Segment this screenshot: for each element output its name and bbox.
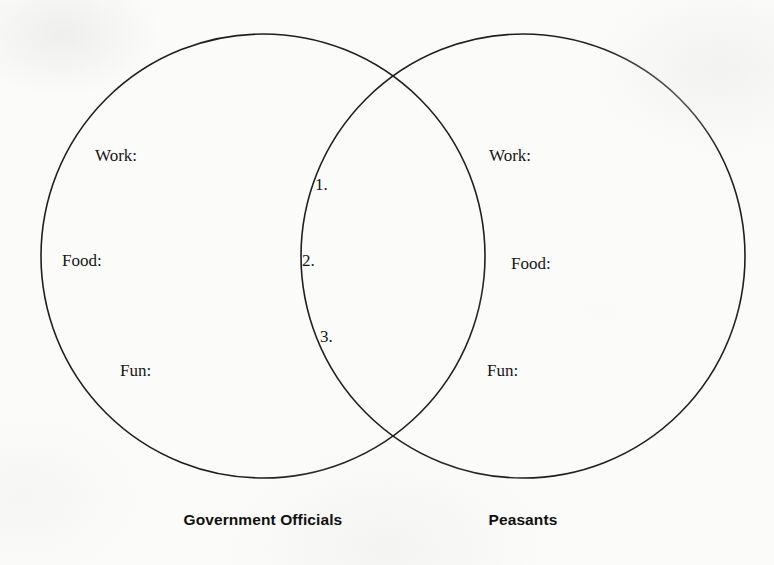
left-prompt-food: Food: bbox=[62, 252, 102, 269]
right-prompt-work: Work: bbox=[489, 147, 531, 164]
left-prompt-fun: Fun: bbox=[120, 362, 151, 379]
left-set-caption: Government Officials bbox=[184, 512, 343, 528]
right-prompt-fun: Fun: bbox=[487, 362, 518, 379]
right-set-caption: Peasants bbox=[489, 512, 558, 528]
overlap-item-1: 1. bbox=[315, 176, 328, 193]
overlap-item-2: 2. bbox=[302, 252, 315, 269]
right-prompt-food: Food: bbox=[511, 255, 551, 272]
overlap-item-3: 3. bbox=[320, 328, 333, 345]
venn-diagram-canvas bbox=[0, 0, 774, 565]
left-prompt-work: Work: bbox=[95, 147, 137, 164]
venn-diagram-worksheet: Work: Food: Fun: Work: Food: Fun: 1. 2. … bbox=[0, 0, 774, 565]
left-set-circle bbox=[41, 34, 485, 478]
